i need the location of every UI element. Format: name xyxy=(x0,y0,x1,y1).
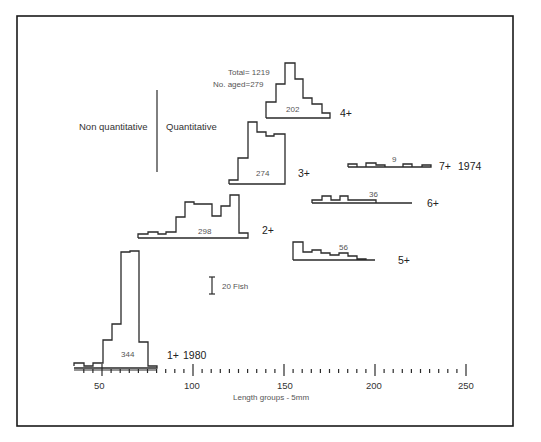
n-label-4: 202 xyxy=(286,105,300,114)
age-label-4: 4+ xyxy=(340,107,352,119)
histogram-6plus xyxy=(312,196,412,203)
n-label-7: 9 xyxy=(392,155,397,164)
aged-label: No. aged=279 xyxy=(213,80,264,89)
age-label-6: 6+ xyxy=(427,197,439,209)
age-label-5: 5+ xyxy=(398,254,410,266)
quantitative-label: Quantitative xyxy=(166,121,217,132)
year-label-1: 1980 xyxy=(183,349,207,361)
scale-bar: 20 Fish xyxy=(209,277,248,294)
tick-label-200: 200 xyxy=(366,380,382,391)
year-label-7: 1974 xyxy=(458,160,482,172)
scale-bar-label: 20 Fish xyxy=(222,282,248,291)
non-quantitative-label: Non quantitative xyxy=(79,121,148,132)
tick-label-250: 250 xyxy=(458,380,474,391)
x-axis-title: Length groups - 5mm xyxy=(233,393,309,402)
n-label-6: 36 xyxy=(369,190,378,199)
n-label-1: 344 xyxy=(121,350,135,359)
x-axis xyxy=(74,364,466,376)
tick-label-100: 100 xyxy=(184,380,200,391)
age-label-2: 2+ xyxy=(262,224,274,236)
n-label-2: 298 xyxy=(198,227,212,236)
age-label-7: 7+ xyxy=(439,160,451,172)
tick-label-50: 50 xyxy=(94,380,105,391)
figure-frame xyxy=(17,16,513,426)
histogram-5plus xyxy=(293,242,375,260)
tick-label-150: 150 xyxy=(277,380,293,391)
n-label-3: 274 xyxy=(256,169,270,178)
age-label-3: 3+ xyxy=(298,167,310,179)
length-frequency-figure: Total= 1219 No. aged=279 Non quantitativ… xyxy=(0,0,541,442)
histogram-2plus xyxy=(138,195,248,238)
histogram-group xyxy=(74,63,431,368)
histogram-7plus xyxy=(348,163,431,167)
histogram-1plus xyxy=(74,251,157,368)
n-label-5: 56 xyxy=(339,243,348,252)
total-label: Total= 1219 xyxy=(228,68,270,77)
age-label-1: 1+ xyxy=(167,349,179,361)
